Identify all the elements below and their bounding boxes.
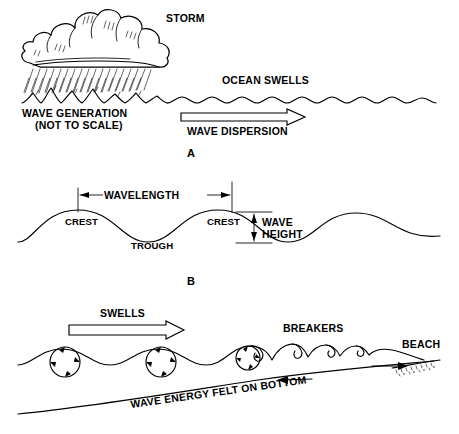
wave-height-dimension (251, 214, 257, 241)
orbital-circle-3 (236, 346, 260, 370)
not-to-scale-label: (NOT TO SCALE) (35, 119, 123, 131)
orbital-motion-circles (50, 346, 260, 377)
orbital-circle-1 (50, 347, 80, 377)
panel-c: SWELLS (18, 307, 440, 414)
wavelength-label: WAVELENGTH (104, 189, 179, 201)
rain-icon (24, 69, 151, 93)
panel-b-letter: B (187, 275, 195, 287)
ocean-swells-label: OCEAN SWELLS (222, 74, 309, 86)
wave-dispersion-arrow (181, 109, 305, 125)
wave-energy-bottom-label: WAVE ENERGY FELT ON BOTTOM (130, 373, 308, 410)
swells-arrow (69, 321, 184, 339)
bottom-energy-label-group: WAVE ENERGY FELT ON BOTTOM (130, 373, 308, 410)
crest-label-left: CREST (65, 216, 98, 227)
wave-dispersion-label: WAVE DISPERSION (187, 125, 288, 137)
panel-a-letter: A (187, 147, 195, 159)
breakers-label: BREAKERS (283, 322, 344, 334)
wave-generation-label: WAVE GENERATION (22, 107, 127, 119)
beach-label: BEACH (402, 338, 440, 350)
wave-height-label-line1: WAVE (262, 216, 293, 228)
wave-height-label-line2: HEIGHT (262, 228, 303, 240)
breaker-curl-3 (326, 345, 335, 357)
diagram-canvas: STORM OCEAN SWELLS WAVE GENERATION (NOT … (0, 0, 459, 434)
crest-label-right: CREST (207, 216, 240, 227)
orbital-circle-2 (146, 347, 176, 377)
swells-label: SWELLS (100, 307, 145, 319)
ocean-swell-surface (167, 97, 436, 103)
wave-diagram-figure: STORM OCEAN SWELLS WAVE GENERATION (NOT … (0, 0, 459, 434)
choppy-sea-surface (22, 86, 167, 103)
storm-cloud-icon (22, 10, 169, 67)
panel-b: WAVELENGTH WAVE HEIGHT CREST CREST TROUG… (18, 182, 440, 287)
storm-label: STORM (166, 12, 205, 24)
panel-a: STORM OCEAN SWELLS WAVE GENERATION (NOT … (22, 10, 436, 159)
trough-label: TROUGH (131, 240, 173, 251)
